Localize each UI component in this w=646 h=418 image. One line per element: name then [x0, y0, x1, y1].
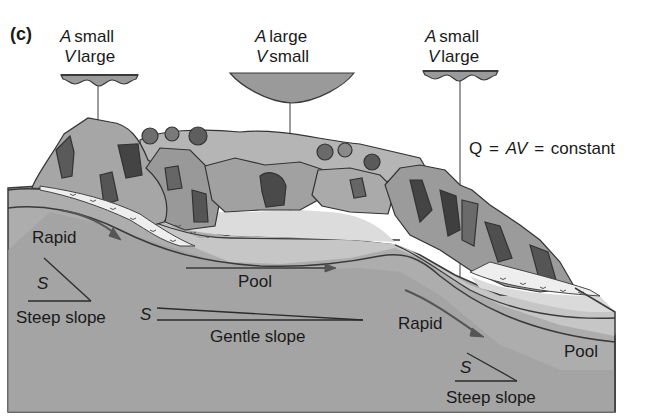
svg-text:Asmall: Asmall: [424, 27, 479, 46]
svg-text:Vlarge: Vlarge: [428, 47, 479, 66]
discharge-equation: Q = AV = constant: [469, 139, 615, 158]
label-rapid-right: Rapid: [398, 314, 442, 333]
stream-channel-diagram: (c) Asmall Vlarge Alarge Vsmall Asmall V…: [0, 0, 646, 418]
panel-label: (c): [10, 24, 32, 44]
svg-text:Asmall: Asmall: [59, 27, 114, 46]
s-symbol-center: S: [140, 305, 152, 324]
label-pool-center: Pool: [238, 272, 272, 291]
svg-text:Vlarge: Vlarge: [64, 47, 115, 66]
label-pool-right: Pool: [564, 342, 598, 361]
label-steep-slope-left: Steep slope: [16, 308, 106, 327]
cross-section-left-label: Asmall Vlarge: [59, 27, 115, 66]
label-steep-slope-right: Steep slope: [446, 388, 536, 407]
s-symbol-left: S: [37, 274, 49, 293]
svg-text:Alarge: Alarge: [254, 27, 307, 46]
cross-section-center-label: Alarge Vsmall: [254, 27, 309, 66]
svg-text:Vsmall: Vsmall: [256, 47, 309, 66]
cross-section-right-label: Asmall Vlarge: [424, 27, 479, 66]
label-gentle-slope: Gentle slope: [210, 327, 305, 346]
s-symbol-right: S: [460, 358, 472, 377]
label-rapid-left: Rapid: [32, 228, 76, 247]
